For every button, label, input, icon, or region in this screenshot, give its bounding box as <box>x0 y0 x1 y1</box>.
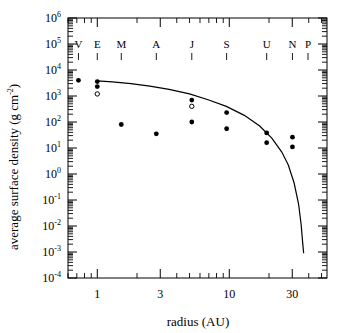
y-tick-label: 10-3 <box>42 244 61 259</box>
planet-label-p: P <box>305 38 311 50</box>
data-point-filled <box>119 122 124 127</box>
x-axis-major-ticks <box>97 18 292 278</box>
y-tick-label: 106 <box>45 10 61 25</box>
planet-label-a: A <box>152 38 160 50</box>
data-point-open <box>95 92 99 96</box>
x-tick-label: 3 <box>157 287 163 301</box>
data-point-filled <box>95 84 100 89</box>
filled-data-points <box>76 78 295 149</box>
y-tick-label: 10-4 <box>42 270 61 285</box>
y-axis-tick-labels: 10-410-310-210-1100101102103104105106 <box>42 10 61 285</box>
svg-text:average surface density (g cm-: average surface density (g cm-2) <box>6 84 21 250</box>
planet-label-j: J <box>190 38 195 50</box>
figure-panel: average surface density (g cm-2) radius … <box>0 0 340 333</box>
planet-label-n: N <box>288 38 296 50</box>
planet-label-v: V <box>74 38 82 50</box>
x-axis-tick-labels: 131030 <box>94 287 298 301</box>
data-point-filled <box>189 120 194 125</box>
data-point-filled <box>76 78 81 83</box>
data-point-open <box>190 104 194 108</box>
y-tick-label: 105 <box>45 36 61 51</box>
data-point-filled <box>290 145 295 150</box>
y-axis-major-ticks <box>68 18 327 278</box>
data-point-filled <box>224 110 229 115</box>
y-tick-label: 101 <box>45 140 61 155</box>
y-tick-label: 104 <box>45 62 61 77</box>
x-axis-minor-ticks <box>68 18 322 278</box>
scatter-plot-svg: average surface density (g cm-2) radius … <box>0 0 340 333</box>
open-data-points <box>95 92 194 109</box>
model-curve <box>97 81 303 253</box>
data-point-filled <box>95 79 100 84</box>
data-point-filled <box>189 98 194 103</box>
planet-label-u: U <box>263 38 271 50</box>
data-point-filled <box>154 131 159 136</box>
planet-label-m: M <box>116 38 126 50</box>
y-axis-label-text: average surface density (g cm <box>6 95 21 250</box>
y-axis-label-paren: ) <box>6 84 21 88</box>
planet-label-s: S <box>224 38 230 50</box>
y-axis-label-exponent: -2 <box>6 88 15 95</box>
plot-frame <box>68 18 327 278</box>
data-point-filled <box>290 135 295 140</box>
y-axis-minor-ticks <box>68 19 327 270</box>
y-axis-label: average surface density (g cm-2) <box>6 84 21 250</box>
data-point-filled <box>224 126 229 131</box>
planet-label-e: E <box>94 38 101 50</box>
x-tick-label: 30 <box>286 287 298 301</box>
x-tick-label: 1 <box>94 287 100 301</box>
y-tick-label: 100 <box>45 166 61 181</box>
x-axis-label: radius (AU) <box>167 314 229 329</box>
y-tick-label: 10-1 <box>42 192 61 207</box>
y-tick-label: 10-2 <box>42 218 61 233</box>
x-tick-label: 10 <box>223 287 235 301</box>
planet-markers: VEMAJSUNP <box>74 38 311 60</box>
data-point-filled <box>264 131 269 136</box>
y-tick-label: 102 <box>45 114 61 129</box>
y-tick-label: 103 <box>45 88 61 103</box>
data-point-filled <box>264 140 269 145</box>
